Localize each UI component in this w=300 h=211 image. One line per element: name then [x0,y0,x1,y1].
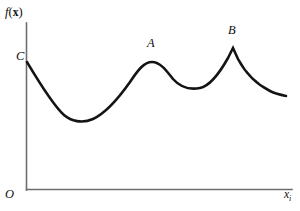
y-axis-label-close-paren: ) [18,5,22,19]
function-graph-figure: f(x) xi O C A B [0,0,300,211]
x-axis-label: xi [284,189,291,203]
origin-label: O [5,188,14,201]
point-label-c: C [16,50,24,63]
graph-canvas [0,0,300,211]
x-axis-label-subscript: i [289,194,291,203]
point-label-a: A [147,37,155,50]
function-curve [27,48,286,122]
y-axis-label: f(x) [5,6,23,19]
point-label-b: B [228,24,236,37]
